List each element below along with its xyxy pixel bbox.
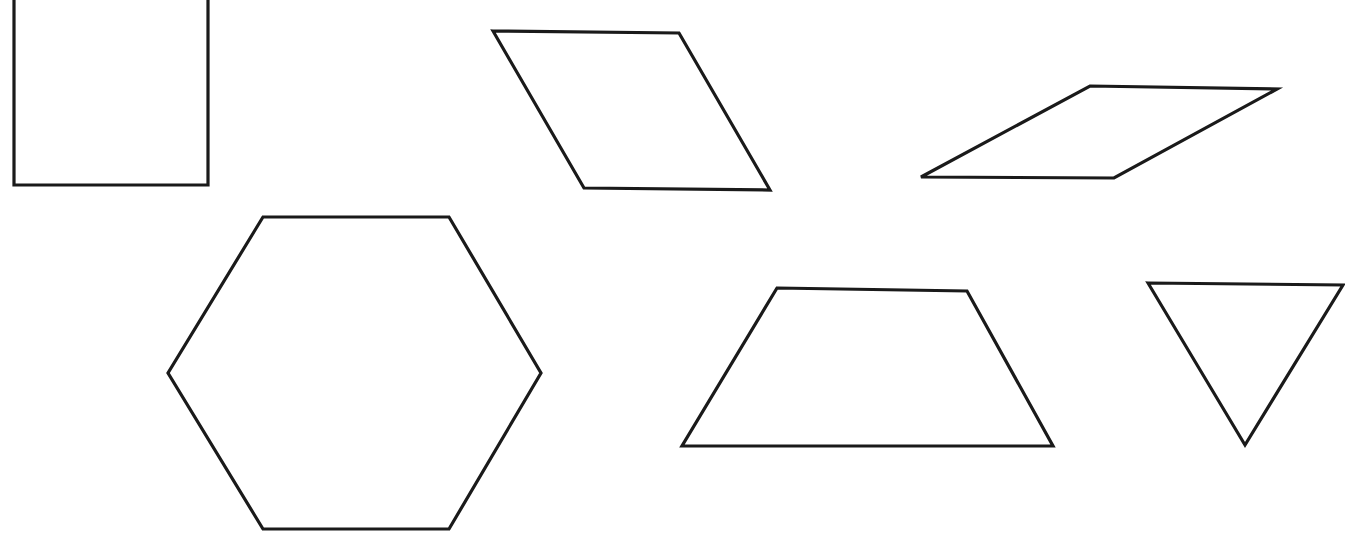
canvas-background [0, 0, 1345, 552]
shapes-svg [0, 0, 1345, 552]
shape-worksheet-canvas [0, 0, 1345, 552]
